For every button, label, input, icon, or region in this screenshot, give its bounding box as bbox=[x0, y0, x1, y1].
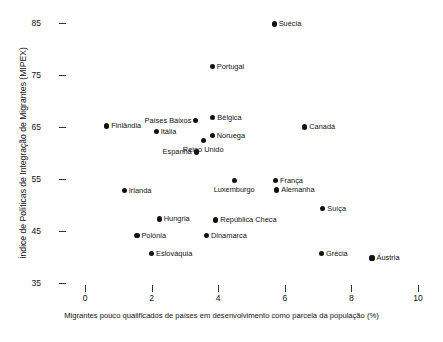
data-point-marker bbox=[154, 129, 159, 134]
data-point-label: Suíça bbox=[327, 204, 346, 213]
data-point-label: Suécia bbox=[279, 19, 302, 28]
y-tick-mark bbox=[59, 75, 66, 76]
data-point-marker bbox=[104, 123, 109, 128]
data-point-label: Grécia bbox=[326, 249, 348, 258]
data-point-marker bbox=[134, 233, 139, 238]
y-tick-mark bbox=[59, 23, 66, 24]
x-tick-mark bbox=[351, 285, 352, 292]
data-point-label: Noruega bbox=[217, 131, 245, 140]
data-point-label: Irlanda bbox=[129, 186, 152, 195]
x-tick-mark bbox=[152, 285, 153, 292]
y-tick-mark bbox=[59, 283, 66, 284]
x-tick-label: 2 bbox=[142, 293, 162, 303]
data-point-marker bbox=[210, 133, 215, 138]
y-axis-title: Índice de Políticas de Integração de Mig… bbox=[18, 23, 28, 283]
data-point-label: Alemanha bbox=[281, 185, 314, 194]
y-tick-label: 75 bbox=[32, 70, 41, 80]
y-tick-label: 85 bbox=[32, 18, 41, 28]
data-point-label: Áustria bbox=[377, 253, 400, 262]
data-point-marker bbox=[204, 233, 209, 238]
data-point-label: Países Baixos bbox=[145, 116, 192, 125]
data-point-marker bbox=[369, 255, 374, 260]
data-point-label: Canadá bbox=[309, 122, 335, 131]
data-point-label: Espanha bbox=[163, 147, 192, 156]
y-tick-label: 45 bbox=[32, 226, 41, 236]
x-tick-mark bbox=[418, 285, 419, 292]
data-point-marker bbox=[157, 216, 162, 221]
x-tick-label: 8 bbox=[341, 293, 361, 303]
data-point-marker bbox=[122, 188, 127, 193]
data-point-label: Dinamarca bbox=[211, 231, 247, 240]
data-point-label: Hungria bbox=[164, 214, 190, 223]
x-tick-label: 10 bbox=[408, 293, 428, 303]
y-tick-mark bbox=[59, 231, 66, 232]
data-point-marker bbox=[213, 217, 218, 222]
y-tick-label: 35 bbox=[32, 278, 41, 288]
x-tick-mark bbox=[218, 285, 219, 292]
data-point-label: Itália bbox=[161, 127, 177, 136]
data-point-marker bbox=[201, 138, 206, 143]
data-point-marker bbox=[320, 206, 325, 211]
scatter-chart: SuéciaPortugalBélgicaPaíses BaixosCanadá… bbox=[0, 0, 443, 342]
data-point-label: Finlândia bbox=[111, 121, 141, 130]
data-point-label: Polónia bbox=[141, 231, 166, 240]
y-tick-mark bbox=[59, 127, 66, 128]
y-tick-label: 65 bbox=[32, 122, 41, 132]
data-point-label: República Checa bbox=[220, 215, 276, 224]
x-tick-label: 0 bbox=[75, 293, 95, 303]
y-tick-label: 55 bbox=[32, 174, 41, 184]
y-tick-mark bbox=[59, 179, 66, 180]
data-point-label: Luxemburgo bbox=[214, 185, 255, 194]
data-point-marker bbox=[210, 115, 215, 120]
data-point-label: França bbox=[280, 176, 303, 185]
x-tick-mark bbox=[285, 285, 286, 292]
x-tick-label: 4 bbox=[208, 293, 228, 303]
x-tick-label: 6 bbox=[275, 293, 295, 303]
data-point-label: Portugal bbox=[217, 62, 245, 71]
data-point-marker bbox=[302, 124, 307, 129]
data-point-marker bbox=[273, 178, 278, 183]
data-point-label: Bélgica bbox=[217, 113, 241, 122]
data-point-marker bbox=[274, 187, 279, 192]
plot-area: SuéciaPortugalBélgicaPaíses BaixosCanadá… bbox=[0, 0, 443, 342]
data-point-marker bbox=[193, 118, 198, 123]
data-point-marker bbox=[194, 149, 199, 154]
data-point-marker bbox=[232, 178, 237, 183]
x-tick-mark bbox=[85, 285, 86, 292]
data-point-marker bbox=[210, 64, 215, 69]
data-point-marker bbox=[272, 21, 277, 26]
data-point-marker bbox=[319, 251, 324, 256]
x-axis-title: Migrantes pouco qualificados de países e… bbox=[0, 311, 443, 321]
data-point-marker bbox=[149, 251, 154, 256]
data-point-label: Eslováquia bbox=[156, 249, 192, 258]
